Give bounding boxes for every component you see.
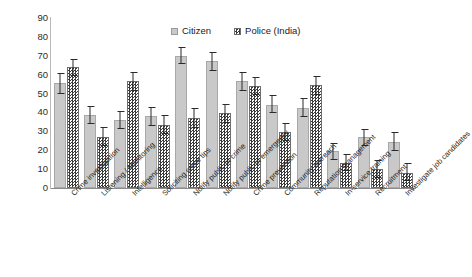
error-bar bbox=[315, 76, 316, 95]
error-bar bbox=[224, 104, 225, 123]
error-bar bbox=[89, 106, 90, 124]
error-bar bbox=[242, 72, 243, 91]
bar-rect bbox=[158, 125, 170, 188]
error-bar bbox=[407, 163, 408, 182]
error-bar bbox=[72, 59, 73, 76]
error-bar bbox=[302, 98, 303, 117]
bar-rect bbox=[219, 113, 231, 188]
error-bar bbox=[181, 47, 182, 64]
error-bar bbox=[194, 108, 195, 128]
y-tick-label: 10 bbox=[4, 164, 48, 174]
y-tick-label: 30 bbox=[4, 127, 48, 137]
error-bar bbox=[59, 73, 60, 94]
y-tick-label: 40 bbox=[4, 108, 48, 118]
error-bar bbox=[211, 52, 212, 71]
bar-group bbox=[53, 18, 83, 188]
error-bar bbox=[150, 107, 151, 126]
y-tick-label: 60 bbox=[4, 70, 48, 80]
y-tick-label: 20 bbox=[4, 145, 48, 155]
error-bar bbox=[133, 72, 134, 91]
error-bar bbox=[120, 111, 121, 130]
x-axis-category-labels: Crime investigationListening / Monitorin… bbox=[0, 190, 422, 277]
error-bar bbox=[272, 95, 273, 113]
y-tick-label: 80 bbox=[4, 32, 48, 42]
bar-rect bbox=[54, 83, 66, 188]
bar-rect bbox=[67, 67, 79, 188]
bar-group bbox=[144, 18, 174, 188]
error-bar bbox=[255, 77, 256, 96]
error-bar bbox=[394, 132, 395, 151]
y-tick-label: 70 bbox=[4, 51, 48, 61]
y-tick-label: 90 bbox=[4, 13, 48, 23]
y-tick-label: 50 bbox=[4, 89, 48, 99]
error-bar bbox=[102, 127, 103, 147]
error-bar bbox=[163, 115, 164, 134]
